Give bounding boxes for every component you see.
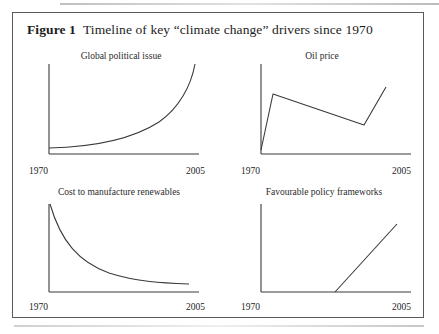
x-axis-label-start: 1970 [241, 302, 260, 312]
figure-caption-text: Timeline of key “climate change” drivers… [83, 22, 373, 37]
x-axis-label-end: 2005 [392, 302, 411, 312]
x-axis-label-start: 1970 [241, 166, 260, 176]
chart-panel-policy-frameworks: Favourable policy frameworks 1970 2005 [219, 182, 425, 318]
chart-panel-cost-renewables: Cost to manufacture renewables 1970 2005 [13, 182, 219, 318]
chart-panel-oil-price: Oil price 1970 2005 [219, 46, 425, 182]
scan-artifact-bottom [14, 325, 424, 327]
chart-panel-global-political-issue: Global political issue 1970 2005 [13, 46, 219, 182]
x-axis-label-end: 2005 [186, 166, 205, 176]
chart-plot-policy-frameworks [219, 182, 425, 318]
figure-caption-label: Figure 1 [27, 22, 76, 37]
chart-grid: Global political issue 1970 2005 Oil pri… [13, 46, 425, 318]
data-line-linear-rise [335, 224, 397, 292]
scan-artifact-top [60, 3, 439, 5]
data-line-exponential-decay [50, 204, 189, 284]
x-axis-label-end: 2005 [392, 166, 411, 176]
x-axis-label-start: 1970 [29, 302, 48, 312]
data-line-exponential-growth [49, 64, 195, 148]
data-line-oil-price [261, 87, 386, 150]
x-axis-label-start: 1970 [29, 166, 48, 176]
chart-plot-global-political-issue [13, 46, 219, 182]
figure-caption: Figure 1Timeline of key “climate change”… [27, 22, 373, 38]
chart-plot-oil-price [219, 46, 425, 182]
chart-plot-cost-renewables [13, 182, 219, 318]
figure-container: Figure 1Timeline of key “climate change”… [12, 12, 424, 318]
x-axis-label-end: 2005 [186, 302, 205, 312]
